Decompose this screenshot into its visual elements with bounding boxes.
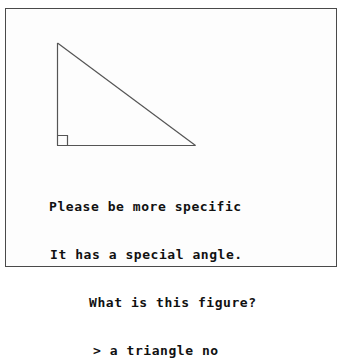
transcript-line-user-answer: > a triangle no [6,343,338,359]
transcript-line-system-1: Please be more specific [6,199,338,215]
figure-area [6,9,338,159]
content-frame: Please be more specific It has a special… [5,8,337,267]
transcript-line-question: What is this figure? [6,295,338,311]
transcript: Please be more specific It has a special… [6,167,338,362]
right-triangle-figure [6,9,338,159]
triangle-hypotenuse [58,43,196,146]
right-angle-marker [58,136,68,146]
transcript-line-system-2: It has a special angle. [6,247,338,263]
